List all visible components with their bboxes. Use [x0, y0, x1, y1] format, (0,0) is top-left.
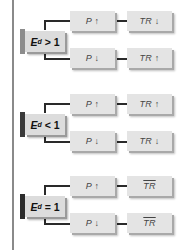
price-box: P ↑	[70, 94, 115, 114]
revenue-box: TR ↑	[127, 94, 172, 114]
section-elastic: Ed > 1 P ↑ TR ↓ P ↓ TR ↑	[0, 0, 185, 82]
connector	[115, 20, 127, 22]
condition-operator: =	[45, 201, 51, 213]
revenue-box: TR ↓	[127, 11, 172, 31]
condition-value: 1	[54, 201, 60, 213]
condition-subscript: d	[37, 38, 41, 45]
connector	[44, 185, 70, 187]
revenue-label: TR ↑	[140, 99, 160, 109]
section-unit-elastic: Ed = 1 P ↑ TR P ↓ TR	[0, 165, 185, 247]
revenue-label-unchanged: TR	[143, 181, 155, 191]
revenue-label: TR ↓	[140, 136, 160, 146]
revenue-label: TR ↓	[140, 16, 160, 26]
price-box: P ↑	[70, 11, 115, 31]
condition-edge	[20, 112, 25, 137]
connector	[44, 185, 46, 195]
condition-symbol: E	[30, 36, 37, 48]
price-label: P ↓	[86, 136, 99, 146]
price-label: P ↑	[86, 16, 99, 26]
connector	[115, 223, 127, 225]
condition-symbol: E	[30, 119, 37, 131]
connector	[44, 58, 70, 60]
section-inelastic: Ed < 1 P ↑ TR ↑ P ↓ TR ↓	[0, 83, 185, 165]
revenue-box: TR	[127, 213, 172, 233]
condition-value: 1	[54, 36, 60, 48]
price-box: P ↓	[70, 48, 115, 68]
condition-box: Ed < 1	[25, 114, 65, 135]
revenue-label-unchanged: TR	[143, 218, 155, 228]
condition-symbol: E	[30, 201, 37, 213]
condition-box: Ed > 1	[25, 31, 65, 52]
condition-operator: <	[45, 119, 51, 131]
connector	[44, 20, 70, 22]
condition-operator: >	[45, 36, 51, 48]
connector	[44, 223, 70, 225]
connector	[115, 185, 127, 187]
connector	[44, 103, 46, 113]
connector	[115, 58, 127, 60]
revenue-box: TR	[127, 176, 172, 196]
price-label: P ↓	[86, 218, 99, 228]
condition-edge	[20, 194, 25, 219]
connector	[115, 103, 127, 105]
connector	[44, 20, 46, 30]
price-box: P ↑	[70, 176, 115, 196]
price-box: P ↓	[70, 131, 115, 151]
price-box: P ↓	[70, 213, 115, 233]
condition-subscript: d	[37, 121, 41, 128]
revenue-label: TR ↑	[140, 53, 160, 63]
condition-edge	[20, 29, 25, 54]
condition-value: 1	[54, 119, 60, 131]
connector	[44, 103, 70, 105]
price-label: P ↑	[86, 181, 99, 191]
condition-box: Ed = 1	[25, 196, 65, 217]
connector	[115, 141, 127, 143]
revenue-box: TR ↓	[127, 131, 172, 151]
price-label: P ↑	[86, 99, 99, 109]
condition-subscript: d	[37, 203, 41, 210]
price-label: P ↓	[86, 53, 99, 63]
revenue-box: TR ↑	[127, 48, 172, 68]
connector	[44, 141, 70, 143]
